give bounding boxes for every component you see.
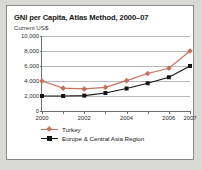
chart-card: GNI per Capita, Atlas Method, 2000–07 Cu… (6, 5, 194, 160)
data-point-marker (81, 86, 87, 92)
legend-swatch (41, 125, 58, 134)
data-point-marker (167, 75, 171, 79)
data-point-marker (124, 78, 130, 84)
data-point-marker (61, 94, 65, 98)
x-axis-tick (127, 111, 128, 114)
data-series-layer (42, 36, 190, 111)
chart-legend: TurkeyEurope & Central Asia Region (41, 125, 144, 143)
x-axis-tick (42, 111, 43, 114)
data-point-marker (146, 81, 150, 85)
chart-title: GNI per Capita, Atlas Method, 2000–07 (14, 13, 148, 22)
data-point-marker (82, 94, 86, 98)
x-axis-tick (148, 111, 149, 114)
legend-label: Turkey (62, 125, 81, 134)
x-axis-tick (190, 111, 191, 114)
legend-item: Europe & Central Asia Region (41, 134, 144, 143)
legend-item: Turkey (41, 125, 144, 134)
x-axis-label: 2004 (120, 115, 133, 121)
x-axis-label: 2002 (78, 115, 91, 121)
chart-subtitle: Current US$ (14, 24, 48, 31)
data-point-marker (60, 85, 66, 91)
x-axis-tick (105, 111, 106, 114)
data-point-marker (145, 71, 151, 77)
data-point-marker (103, 91, 107, 95)
plot-area: 02,0004,0006,0008,00010,000 200020022004… (41, 36, 190, 112)
x-axis-tick (169, 111, 170, 114)
x-axis-label: 2000 (35, 115, 48, 121)
legend-marker (46, 126, 52, 132)
y-axis-label: 8,000 (24, 48, 39, 54)
series-line (42, 66, 190, 96)
y-axis-label: 10,000 (21, 33, 39, 39)
x-axis-tick (63, 111, 64, 114)
x-axis-tick (84, 111, 85, 114)
x-axis-label: 2007 (183, 115, 196, 121)
legend-label: Europe & Central Asia Region (62, 134, 144, 143)
data-point-marker (125, 87, 129, 91)
y-axis-label: 0 (36, 108, 39, 114)
x-axis-label: 2006 (162, 115, 175, 121)
y-axis-label: 4,000 (24, 78, 39, 84)
data-point-marker (40, 94, 44, 98)
y-axis-label: 6,000 (24, 63, 39, 69)
data-point-marker (188, 64, 192, 68)
data-point-marker (39, 78, 45, 84)
data-point-marker (103, 85, 109, 91)
y-axis-label: 2,000 (24, 93, 39, 99)
legend-marker (47, 136, 51, 140)
legend-swatch (41, 134, 58, 143)
